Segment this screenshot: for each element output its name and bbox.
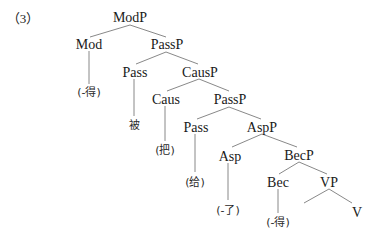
syntax-tree-diagram: （3） ModP M: [0, 0, 371, 234]
leaf-pass-gei: (给): [185, 176, 205, 189]
leaf-caus-ba: (把): [155, 143, 175, 157]
edge-passp2-aspp: [229, 107, 261, 119]
node-pass-2: Pass: [184, 120, 209, 135]
node-causp: CausP: [182, 65, 218, 80]
node-caus: Caus: [152, 92, 180, 107]
tree-nodes: ModP Mod PassP Pass CausP Caus PassP Pas…: [76, 10, 362, 220]
leaf-asp-le: (-了): [216, 204, 240, 217]
edge-modp-passp: [130, 25, 166, 37]
example-number-label: （3）: [7, 11, 40, 26]
edge-passp2-pass2: [197, 107, 229, 119]
edge-vp-v: [329, 189, 352, 203]
node-aspp: AspP: [247, 120, 278, 135]
node-pass: Pass: [123, 65, 148, 80]
node-vp: VP: [320, 175, 338, 190]
node-passp: PassP: [151, 37, 184, 52]
node-mod: Mod: [76, 37, 102, 52]
edge-causp-passp: [199, 79, 229, 91]
leaf-bec-de: (-得): [266, 216, 290, 229]
edge-becp-vp: [299, 162, 327, 174]
node-asp: Asp: [219, 149, 242, 164]
edge-aspp-becp: [262, 134, 297, 147]
edge-vp-left: [304, 189, 329, 203]
node-bec: Bec: [267, 175, 289, 190]
leaf-mod-de: (-得): [77, 86, 101, 99]
edge-aspp-asp: [232, 134, 262, 147]
edge-passp-pass: [136, 52, 166, 64]
edge-modp-mod: [90, 25, 130, 37]
node-becp: BecP: [284, 148, 314, 163]
leaf-pass-bei: 被: [129, 119, 140, 132]
edge-causp-caus: [167, 79, 199, 91]
edge-passp-causp: [166, 52, 198, 64]
node-v: V: [352, 205, 362, 220]
node-modp: ModP: [113, 10, 147, 25]
node-passp-2: PassP: [214, 92, 247, 107]
edge-becp-bec: [279, 162, 299, 174]
tree-leaves: (-得) 被 (把) (给) (-了) (-得): [77, 86, 290, 229]
